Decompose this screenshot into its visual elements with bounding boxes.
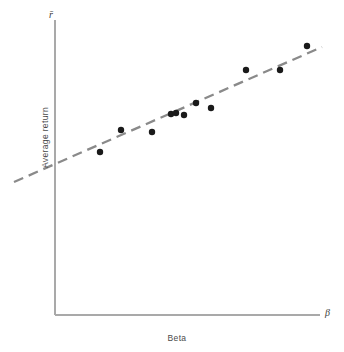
data-point [118,127,124,133]
data-points-group [97,43,310,155]
data-point [243,67,249,73]
x-axis-title: Beta [0,333,344,343]
y-axis-title: Average return [40,107,50,168]
data-point [173,110,179,116]
data-point [193,100,199,106]
data-point [181,112,187,118]
data-point [97,149,103,155]
scatter-plot-canvas [0,0,344,352]
data-point [149,129,155,135]
x-axis-symbol-beta: β [325,308,330,318]
data-point [208,105,214,111]
chart-figure: r̄ β Average return Beta [0,0,344,352]
y-axis-symbol-rbar: r̄ [49,10,53,20]
data-point [277,67,283,73]
data-point [304,43,310,49]
